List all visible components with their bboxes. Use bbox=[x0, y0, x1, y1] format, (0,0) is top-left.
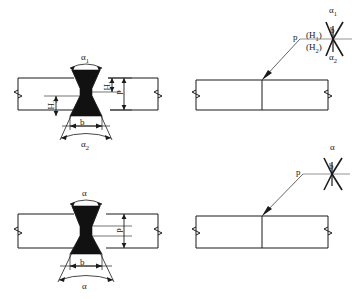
label-H1-top-right: (H1) bbox=[306, 31, 322, 42]
label-b-top-left: b bbox=[80, 118, 85, 127]
label-b-top-right: b bbox=[330, 26, 335, 35]
label-alpha2-top-left: α2 bbox=[81, 140, 89, 151]
label-alpha-bottom-right: α bbox=[330, 143, 335, 152]
drawing-sheet: α1 b α2 H1 p H2 p (H1) (H2) b α1 α2 α b … bbox=[0, 0, 360, 299]
label-alpha-low-bottom-left: α bbox=[82, 282, 87, 291]
label-b-bottom-right: b bbox=[329, 162, 334, 171]
label-b-bottom-left: b bbox=[80, 258, 85, 267]
bottom-left-plate-section bbox=[14, 200, 162, 282]
label-p-bottom-left: p bbox=[114, 228, 123, 233]
label-alpha1-top-right: α1 bbox=[329, 6, 337, 17]
label-H2-top-left: H2 bbox=[47, 100, 58, 110]
label-alpha2-top-right: α2 bbox=[329, 53, 337, 64]
label-H2-top-right: (H2) bbox=[306, 43, 322, 54]
top-left-plate-section bbox=[14, 64, 162, 140]
label-alpha-bottom-left: α bbox=[82, 189, 87, 198]
label-p-top-left: p bbox=[114, 90, 123, 95]
top-right-symbol-panel bbox=[192, 22, 352, 110]
bottom-right-symbol-panel bbox=[192, 158, 350, 248]
label-p-bottom-right: p bbox=[296, 168, 301, 177]
label-alpha1-top-left: α1 bbox=[81, 53, 89, 64]
label-p-top-right: p bbox=[293, 33, 298, 42]
